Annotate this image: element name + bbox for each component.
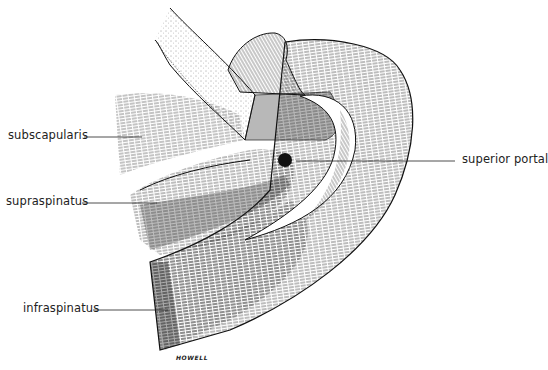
label-superior-portal: superior portal (462, 152, 548, 166)
label-supraspinatus: supraspinatus (6, 194, 88, 208)
label-infraspinatus: infraspinatus (23, 301, 99, 315)
superior-portal-marker (278, 153, 292, 167)
artist-signature: HOWELL (176, 354, 208, 361)
label-subscapularis: subscapularis (8, 128, 88, 142)
